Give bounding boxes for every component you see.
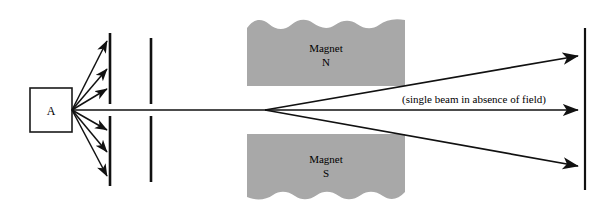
magnet-south-label-line2: S xyxy=(323,167,329,179)
magnet-south: Magnet S xyxy=(247,134,405,199)
source-box-label: A xyxy=(47,104,56,118)
magnet-north-label-line2: N xyxy=(322,56,330,68)
magnet-north: Magnet N xyxy=(247,19,405,86)
source-box: A xyxy=(30,88,72,132)
magnet-south-label-line1: Magnet xyxy=(309,153,343,165)
beam-annotation: (single beam in absence of field) xyxy=(402,93,546,106)
beam-deflection-diagram: Magnet N Magnet S A xyxy=(0,0,611,219)
magnet-north-label-line1: Magnet xyxy=(309,42,343,54)
